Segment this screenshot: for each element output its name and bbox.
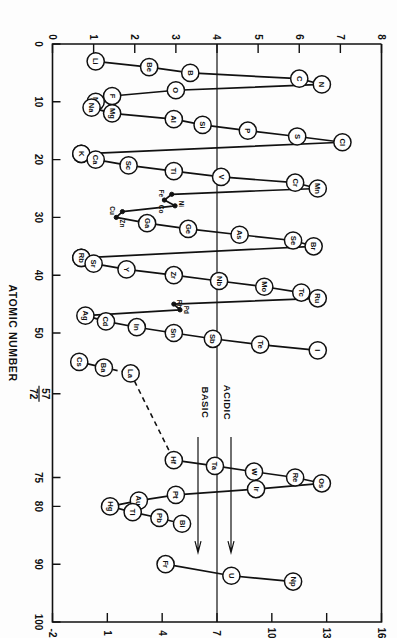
data-point-label-Ge: Ge <box>183 224 192 234</box>
data-point-label-U: U <box>226 573 235 579</box>
data-point-label-Ba: Ba <box>99 363 108 373</box>
series-line-period-5a <box>81 258 317 298</box>
x-axis-tick-label: 90 <box>32 559 43 571</box>
data-point-label-P: P <box>243 128 252 133</box>
series-line-period-5c <box>85 316 317 351</box>
data-point-label-Cu: Cu <box>108 206 115 215</box>
region-label-basic: BASIC <box>200 387 211 419</box>
x-axis-title: ATOMIC NUMBER <box>6 284 18 381</box>
data-point-label-La: La <box>126 369 135 379</box>
data-point-label-C: C <box>294 76 303 82</box>
data-point-label-Nb: Nb <box>214 276 223 286</box>
acidity-vs-atomic-number-chart: 010203040507580901005772ATOMIC NUMBER012… <box>0 0 397 638</box>
data-point-label-Ir: Ir <box>251 487 260 492</box>
series-line-period-2 <box>95 61 321 101</box>
data-point-label-Bi: Bi <box>177 520 186 528</box>
data-point-label-Sc: Sc <box>124 161 133 170</box>
data-point-label-Mo: Mo <box>259 281 268 292</box>
y-right-tick-label: 10 <box>266 627 277 638</box>
data-point-label-N: N <box>317 82 326 87</box>
data-point-label-Mn: Mn <box>313 183 322 194</box>
data-point-label-Ta: Ta <box>210 462 219 471</box>
y-left-tick-label: 8 <box>375 34 386 40</box>
x-axis-tick-label: 0 <box>32 41 43 47</box>
data-point-label-Pb: Pb <box>154 513 163 523</box>
data-point-label-Li: Li <box>91 58 100 65</box>
y-left-tick-label: 2 <box>129 34 140 40</box>
data-point-label-Ni: Ni <box>177 201 184 208</box>
data-point-label-Co: Co <box>157 205 164 214</box>
basic-arrow-icon <box>195 437 201 553</box>
data-point-label-Mg: Mg <box>107 108 116 119</box>
data-point-Pd <box>177 308 181 312</box>
y-right-tick-label: -2 <box>46 629 57 638</box>
x-axis-tick-label: 20 <box>32 154 43 166</box>
data-point-label-Cl: Cl <box>337 138 346 146</box>
data-point-label-S: S <box>292 134 301 139</box>
data-point-label-Rb: Rb <box>76 253 85 263</box>
data-point-label-Cd: Cd <box>101 316 110 326</box>
data-point-label-Tl: Tl <box>128 509 137 516</box>
y-left-tick-label: 5 <box>252 34 263 40</box>
data-point-Cu <box>120 210 124 214</box>
y-left-tick-label: 0 <box>46 34 57 40</box>
series-line-period-4a <box>81 154 317 189</box>
data-point-label-Sn: Sn <box>169 328 178 338</box>
data-point-Co <box>162 198 166 202</box>
data-point-label-Zn: Zn <box>118 219 125 227</box>
data-point-label-Ag: Ag <box>80 311 89 321</box>
data-point-label-I: I <box>313 349 322 351</box>
data-point-label-Te: Te <box>255 340 264 348</box>
data-point-label-Be: Be <box>144 62 153 72</box>
figure-canvas: 010203040507580901005772ATOMIC NUMBER012… <box>0 0 397 638</box>
data-point-label-Fe: Fe <box>158 190 165 198</box>
series-line-period-6-la-hf <box>103 368 173 460</box>
data-point-label-As: As <box>235 230 244 240</box>
y-right-tick-label: 1 <box>101 630 112 636</box>
data-point-Rh <box>171 302 175 306</box>
series-line-period-5b-transition <box>85 298 317 315</box>
acidic-arrow-icon <box>228 437 234 553</box>
data-point-label-Os: Os <box>317 478 326 488</box>
data-point-label-Y: Y <box>122 267 131 272</box>
data-point-Fe <box>169 192 173 196</box>
data-point-label-Ru: Ru <box>313 293 322 303</box>
data-point-label-K: K <box>76 151 85 157</box>
y-left-tick-label: 3 <box>170 34 181 40</box>
x-axis-tick-label: 10 <box>32 96 43 108</box>
data-point-label-Al: Al <box>169 115 178 123</box>
data-point-label-Hf: Hf <box>169 456 178 464</box>
data-point-label-O: O <box>171 87 180 93</box>
data-point-label-Br: Br <box>309 242 318 250</box>
data-point-label-Ga: Ga <box>142 218 151 229</box>
data-point-label-W: W <box>249 468 258 476</box>
rotated-chart-wrapper: 010203040507580901005772ATOMIC NUMBER012… <box>0 0 397 638</box>
data-point-label-Pd: Pd <box>182 306 189 314</box>
x-axis-tick-label: 100 <box>32 614 43 631</box>
data-point-label-Cr: Cr <box>290 178 299 186</box>
data-point-label-Pt: Pt <box>171 491 180 499</box>
series-line-period-6d <box>110 506 182 523</box>
data-point-label-B: B <box>185 70 194 76</box>
y-left-tick-label: 1 <box>88 34 99 40</box>
x-axis-tick-label-72: 72 <box>27 388 38 400</box>
data-point-label-Cs: Cs <box>74 357 83 367</box>
data-point-Ni <box>172 204 176 208</box>
y-right-tick-label: 4 <box>156 630 167 636</box>
data-point-label-Na: Na <box>87 103 96 113</box>
data-point-label-F: F <box>107 94 116 99</box>
data-point-label-Hg: Hg <box>105 501 114 511</box>
data-point-label-Ti: Ti <box>169 168 178 175</box>
x-axis-tick-label: 75 <box>32 472 43 484</box>
x-axis-tick-label: 40 <box>32 270 43 282</box>
data-point-label-Si: Si <box>198 121 207 128</box>
data-point-label-Tc: Tc <box>296 288 305 296</box>
series-line-period-4c <box>81 217 313 257</box>
data-point-label-Sb: Sb <box>208 334 217 344</box>
data-point-label-Zr: Zr <box>169 271 178 279</box>
x-axis-tick-label-57: 57 <box>39 388 50 400</box>
y-right-tick-label: 13 <box>321 627 332 638</box>
x-axis-tick-label: 50 <box>32 327 43 339</box>
data-point-label-Np: Np <box>288 576 297 586</box>
y-left-tick-label: 7 <box>334 34 345 40</box>
